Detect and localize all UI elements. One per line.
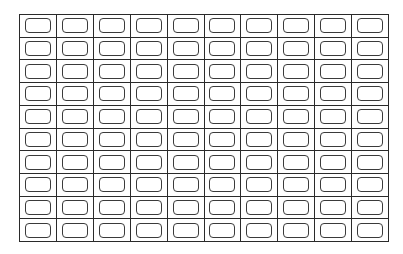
answer-box[interactable] (283, 177, 309, 192)
answer-box[interactable] (99, 132, 125, 147)
answer-box[interactable] (320, 41, 346, 56)
answer-box[interactable] (246, 109, 272, 124)
answer-box[interactable] (209, 109, 235, 124)
answer-box[interactable] (283, 155, 309, 170)
answer-box[interactable] (136, 18, 162, 33)
answer-box[interactable] (246, 223, 272, 238)
answer-box[interactable] (320, 109, 346, 124)
answer-box[interactable] (320, 86, 346, 101)
answer-box[interactable] (99, 41, 125, 56)
answer-box[interactable] (283, 200, 309, 215)
answer-box[interactable] (25, 18, 51, 33)
answer-box[interactable] (136, 177, 162, 192)
answer-box[interactable] (173, 155, 199, 170)
answer-box[interactable] (99, 64, 125, 79)
answer-box[interactable] (320, 132, 346, 147)
answer-box[interactable] (209, 200, 235, 215)
answer-box[interactable] (246, 200, 272, 215)
answer-box[interactable] (357, 132, 383, 147)
answer-box[interactable] (209, 41, 235, 56)
answer-box[interactable] (209, 64, 235, 79)
answer-box[interactable] (173, 200, 199, 215)
answer-box[interactable] (246, 132, 272, 147)
answer-box[interactable] (209, 18, 235, 33)
answer-box[interactable] (25, 109, 51, 124)
answer-box[interactable] (320, 155, 346, 170)
answer-box[interactable] (62, 155, 88, 170)
answer-box[interactable] (246, 41, 272, 56)
answer-box[interactable] (99, 86, 125, 101)
answer-box[interactable] (320, 177, 346, 192)
answer-box[interactable] (357, 64, 383, 79)
answer-box[interactable] (62, 200, 88, 215)
answer-box[interactable] (173, 41, 199, 56)
answer-box[interactable] (136, 155, 162, 170)
answer-box[interactable] (283, 86, 309, 101)
answer-box[interactable] (62, 64, 88, 79)
answer-box[interactable] (357, 155, 383, 170)
answer-box[interactable] (62, 18, 88, 33)
answer-box[interactable] (62, 41, 88, 56)
answer-box[interactable] (99, 109, 125, 124)
answer-box[interactable] (246, 155, 272, 170)
answer-box[interactable] (357, 200, 383, 215)
answer-box[interactable] (283, 41, 309, 56)
answer-box[interactable] (99, 155, 125, 170)
answer-box[interactable] (136, 200, 162, 215)
answer-box[interactable] (173, 18, 199, 33)
answer-box[interactable] (25, 177, 51, 192)
answer-box[interactable] (136, 132, 162, 147)
answer-box[interactable] (62, 132, 88, 147)
answer-box[interactable] (173, 86, 199, 101)
answer-box[interactable] (209, 223, 235, 238)
answer-box[interactable] (99, 18, 125, 33)
answer-box[interactable] (209, 155, 235, 170)
answer-box[interactable] (357, 41, 383, 56)
answer-box[interactable] (320, 18, 346, 33)
answer-box[interactable] (136, 64, 162, 79)
answer-box[interactable] (173, 177, 199, 192)
answer-box[interactable] (25, 86, 51, 101)
answer-box[interactable] (283, 223, 309, 238)
answer-box[interactable] (62, 109, 88, 124)
answer-box[interactable] (320, 64, 346, 79)
answer-box[interactable] (173, 64, 199, 79)
answer-box[interactable] (320, 200, 346, 215)
answer-box[interactable] (99, 177, 125, 192)
answer-box[interactable] (173, 223, 199, 238)
answer-box[interactable] (209, 132, 235, 147)
answer-box[interactable] (25, 155, 51, 170)
answer-box[interactable] (136, 109, 162, 124)
answer-box[interactable] (99, 223, 125, 238)
answer-box[interactable] (25, 132, 51, 147)
answer-box[interactable] (62, 177, 88, 192)
answer-box[interactable] (246, 86, 272, 101)
answer-box[interactable] (357, 86, 383, 101)
answer-box[interactable] (320, 223, 346, 238)
answer-box[interactable] (136, 86, 162, 101)
answer-box[interactable] (357, 223, 383, 238)
answer-box[interactable] (283, 18, 309, 33)
answer-box[interactable] (283, 132, 309, 147)
answer-box[interactable] (25, 64, 51, 79)
answer-box[interactable] (25, 200, 51, 215)
answer-box[interactable] (25, 223, 51, 238)
answer-box[interactable] (25, 41, 51, 56)
answer-box[interactable] (283, 109, 309, 124)
answer-box[interactable] (136, 41, 162, 56)
answer-box[interactable] (209, 86, 235, 101)
answer-box[interactable] (99, 200, 125, 215)
answer-box[interactable] (357, 18, 383, 33)
answer-box[interactable] (283, 64, 309, 79)
answer-box[interactable] (136, 223, 162, 238)
answer-box[interactable] (357, 109, 383, 124)
answer-box[interactable] (173, 109, 199, 124)
answer-box[interactable] (246, 177, 272, 192)
answer-box[interactable] (62, 86, 88, 101)
answer-box[interactable] (62, 223, 88, 238)
answer-box[interactable] (246, 64, 272, 79)
answer-box[interactable] (357, 177, 383, 192)
answer-box[interactable] (246, 18, 272, 33)
answer-box[interactable] (209, 177, 235, 192)
answer-box[interactable] (173, 132, 199, 147)
